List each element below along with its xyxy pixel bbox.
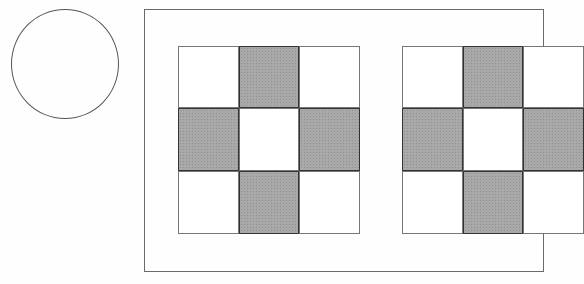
- shaded-cell-r2-c1: [178, 108, 239, 171]
- empty-cell-r3-c3: [523, 171, 584, 234]
- circle-shape: [11, 9, 119, 119]
- shaded-cell-r2-c3: [299, 108, 360, 171]
- shaded-cell-r2-c1: [402, 108, 463, 171]
- empty-cell-r1-c1: [178, 46, 239, 108]
- shaded-cell-r1-c2: [239, 46, 299, 108]
- shaded-cell-r1-c2: [463, 46, 523, 108]
- empty-cell-r1-c3: [299, 46, 360, 108]
- empty-cell-r2-c2: [239, 108, 299, 171]
- empty-cell-r3-c1: [178, 171, 239, 234]
- shaded-cell-r3-c2: [463, 171, 523, 234]
- empty-cell-r2-c2: [463, 108, 523, 171]
- checker-grid-2: [402, 46, 584, 234]
- shaded-cell-r3-c2: [239, 171, 299, 234]
- shaded-cell-r2-c3: [523, 108, 584, 171]
- empty-cell-r1-c3: [523, 46, 584, 108]
- empty-cell-r3-c3: [299, 171, 360, 234]
- empty-cell-r3-c1: [402, 171, 463, 234]
- checker-grid-1: [178, 46, 360, 234]
- empty-cell-r1-c1: [402, 46, 463, 108]
